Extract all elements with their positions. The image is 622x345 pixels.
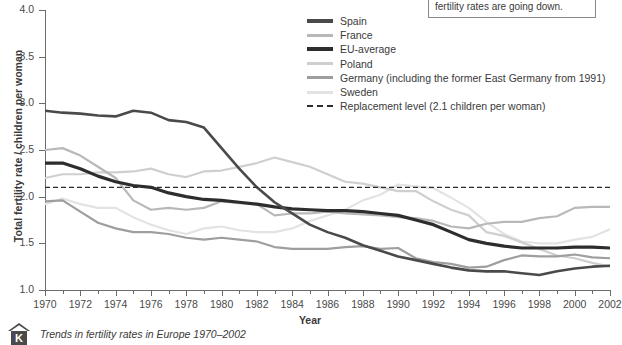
x-tick-mark (186, 291, 187, 296)
y-tick-label: 3.5 (0, 51, 34, 61)
y-tick-mark (39, 243, 45, 244)
legend-swatch (307, 62, 333, 65)
x-tick-mark (222, 291, 223, 296)
x-tick-label: 1978 (175, 298, 198, 310)
series-line-spain (45, 111, 610, 275)
x-tick-label: 1998 (528, 298, 551, 310)
x-tick-mark (45, 291, 46, 296)
x-tick-label: 1986 (316, 298, 339, 310)
y-tick-label: 1.0 (0, 284, 34, 294)
x-tick-mark (380, 291, 381, 294)
callout-text: fertility rates are going down. (435, 0, 563, 13)
legend-swatch (307, 34, 333, 37)
caption-bar: K Trends in fertility rates in Europe 19… (0, 322, 620, 345)
legend-item[interactable]: Sweden (307, 85, 606, 99)
x-tick-mark (169, 291, 170, 294)
x-tick-label: 1976 (139, 298, 162, 310)
logo-letter: K (11, 331, 27, 345)
x-tick-mark (522, 291, 523, 294)
legend-item[interactable]: France (307, 28, 606, 42)
legend-swatch (307, 47, 333, 51)
x-tick-mark (310, 291, 311, 294)
x-tick-label: 1970 (33, 298, 56, 310)
x-tick-label: 1990 (386, 298, 409, 310)
legend-label: Germany (including the former East Germa… (340, 72, 606, 84)
legend-label: Spain (340, 15, 367, 27)
x-tick-label: 2000 (563, 298, 586, 310)
y-tick-mark (39, 150, 45, 151)
series-line-sweden (45, 185, 610, 244)
x-tick-mark (80, 291, 81, 296)
x-tick-mark (451, 291, 452, 294)
x-tick-mark (363, 291, 364, 296)
x-tick-mark (504, 291, 505, 296)
x-tick-mark (557, 291, 558, 294)
x-tick-label: 1980 (210, 298, 233, 310)
legend-swatch (307, 19, 333, 22)
x-tick-mark (133, 291, 134, 294)
x-tick-label: 1972 (69, 298, 92, 310)
x-tick-mark (98, 291, 99, 294)
chart-legend: SpainFranceEU-averagePolandGermany (incl… (307, 14, 606, 113)
y-tick-mark (39, 290, 45, 291)
y-tick-mark (39, 197, 45, 198)
y-tick-label: 2.0 (0, 191, 34, 201)
y-axis-tick-labels: 1.01.52.02.53.03.54.0 (0, 0, 38, 345)
x-tick-mark (398, 291, 399, 296)
x-tick-mark (151, 291, 152, 296)
legend-swatch (307, 76, 333, 79)
x-tick-label: 1988 (351, 298, 374, 310)
y-tick-mark (39, 57, 45, 58)
x-tick-label: 2002 (598, 298, 621, 310)
y-tick-label: 2.5 (0, 144, 34, 154)
y-tick-label: 3.0 (0, 97, 34, 107)
x-tick-mark (592, 291, 593, 294)
x-tick-mark (610, 291, 611, 296)
x-tick-mark (204, 291, 205, 294)
legend-label: France (340, 29, 373, 41)
x-tick-label: 1974 (104, 298, 127, 310)
x-tick-label: 1982 (245, 298, 268, 310)
legend-item[interactable]: Replacement level (2.1 children per woma… (307, 99, 606, 113)
caption-text: Trends in fertility rates in Europe 1970… (40, 328, 246, 340)
legend-item[interactable]: EU-average (307, 42, 606, 56)
x-tick-mark (239, 291, 240, 294)
x-tick-mark (63, 291, 64, 294)
y-tick-label: 1.5 (0, 237, 34, 247)
legend-item[interactable]: Poland (307, 57, 606, 71)
x-tick-mark (469, 291, 470, 296)
x-tick-label: 1996 (492, 298, 515, 310)
y-tick-mark (39, 103, 45, 104)
callout-box: fertility rates are going down. (428, 0, 596, 18)
x-tick-mark (257, 291, 258, 296)
x-tick-mark (116, 291, 117, 296)
x-tick-mark (328, 291, 329, 296)
x-tick-mark (275, 291, 276, 294)
legend-label: Poland (340, 58, 373, 70)
y-tick-label: 4.0 (0, 4, 34, 14)
series-line-eu-average (45, 163, 610, 248)
legend-swatch (307, 105, 333, 107)
x-tick-mark (292, 291, 293, 296)
y-tick-mark (39, 10, 45, 11)
x-tick-label: 1992 (422, 298, 445, 310)
legend-label: Sweden (340, 86, 378, 98)
legend-label: Replacement level (2.1 children per woma… (340, 100, 545, 112)
x-tick-mark (433, 291, 434, 296)
legend-label: EU-average (340, 43, 396, 55)
x-tick-mark (575, 291, 576, 296)
legend-item[interactable]: Germany (including the former East Germa… (307, 71, 606, 85)
x-tick-label: 1984 (281, 298, 304, 310)
x-tick-mark (539, 291, 540, 296)
legend-swatch (307, 91, 333, 94)
x-tick-mark (416, 291, 417, 294)
publisher-logo: K (6, 321, 32, 345)
x-tick-mark (345, 291, 346, 294)
x-tick-mark (486, 291, 487, 294)
x-tick-label: 1994 (457, 298, 480, 310)
